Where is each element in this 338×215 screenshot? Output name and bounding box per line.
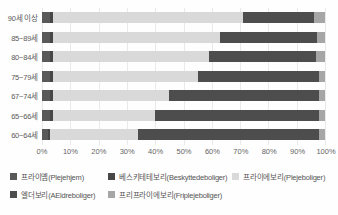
legend-label: 프리프라이에보리(Friplejeboliger) bbox=[119, 189, 222, 200]
bar-segment bbox=[316, 51, 324, 62]
bar-segment bbox=[42, 90, 50, 101]
bar-row bbox=[42, 125, 325, 145]
bar-segment bbox=[319, 90, 325, 101]
legend-label: 프라이옘(Plejehjem) bbox=[21, 171, 84, 182]
bar-row bbox=[42, 47, 325, 67]
bar-segment bbox=[317, 32, 325, 43]
bar-row bbox=[42, 8, 325, 28]
x-axis-tick-label: 70% bbox=[233, 147, 248, 156]
y-axis-label: 65~66세 bbox=[0, 106, 42, 126]
y-axis-label: 80~84세 bbox=[0, 47, 42, 67]
y-axis-label: 60~64세 bbox=[0, 125, 42, 145]
legend-item: 베스키테테보리(Beskyttedeboliger) bbox=[108, 171, 232, 182]
bar-segment bbox=[42, 12, 50, 23]
legend: 프라이옘(Plejehjem)베스키테테보리(Beskyttedeboliger… bbox=[10, 171, 338, 200]
stacked-bar-chart: 90세 이상85~89세80~84세75~79세67~74세65~66세60~6… bbox=[0, 0, 338, 200]
legend-label: 베스키테테보리(Beskyttedeboliger) bbox=[119, 171, 227, 182]
x-axis-tick-label: 50% bbox=[176, 147, 191, 156]
bar-segment bbox=[42, 110, 50, 121]
bar-track bbox=[42, 90, 325, 101]
bar-segment bbox=[209, 51, 317, 62]
x-axis-tick-label: 10% bbox=[63, 147, 78, 156]
bar-row bbox=[42, 67, 325, 87]
bar-segment bbox=[198, 71, 320, 82]
bar-track bbox=[42, 71, 325, 82]
bar-segment bbox=[155, 110, 319, 121]
bars-area bbox=[42, 8, 326, 145]
bar-track bbox=[42, 12, 325, 23]
bar-segment bbox=[53, 71, 197, 82]
bar-segment bbox=[319, 71, 325, 82]
legend-label: 프라이에보리(Plejeboliger) bbox=[243, 171, 325, 182]
legend-label: 엘더보리(AEldreboliger) bbox=[21, 189, 95, 200]
x-axis-tick-label: 60% bbox=[205, 147, 220, 156]
bar-segment bbox=[53, 51, 209, 62]
bar-segment bbox=[53, 90, 169, 101]
bar-segment bbox=[243, 12, 314, 23]
bar-segment bbox=[53, 110, 155, 121]
bar-track bbox=[42, 110, 325, 121]
x-axis-tick-label: 100% bbox=[316, 147, 335, 156]
legend-swatch-icon bbox=[108, 191, 115, 198]
bar-segment bbox=[53, 12, 243, 23]
bar-segment bbox=[42, 71, 50, 82]
x-axis: 0%10%20%30%40%50%60%70%80%90%100% bbox=[0, 147, 338, 159]
legend-item: 엘더보리(AEldreboliger) bbox=[10, 189, 108, 200]
bar-segment bbox=[53, 32, 220, 43]
bar-segment bbox=[50, 129, 138, 140]
x-axis-tick-label: 0% bbox=[37, 147, 48, 156]
bar-segment bbox=[42, 51, 50, 62]
legend-item: 프리프라이에보리(Friplejeboliger) bbox=[108, 189, 232, 200]
bar-track bbox=[42, 51, 325, 62]
legend-swatch-icon bbox=[232, 173, 239, 180]
bar-row bbox=[42, 106, 325, 126]
bar-segment bbox=[220, 32, 316, 43]
bar-row bbox=[42, 28, 325, 48]
bar-segment bbox=[169, 90, 319, 101]
y-axis-labels: 90세 이상85~89세80~84세75~79세67~74세65~66세60~6… bbox=[0, 8, 42, 145]
y-axis-label: 75~79세 bbox=[0, 67, 42, 87]
legend-swatch-icon bbox=[10, 173, 17, 180]
bar-track bbox=[42, 129, 325, 140]
x-axis-tick-label: 90% bbox=[290, 147, 305, 156]
y-axis-label: 67~74세 bbox=[0, 86, 42, 106]
bar-segment bbox=[314, 12, 325, 23]
bar-row bbox=[42, 86, 325, 106]
legend-item: 프라이에보리(Plejeboliger) bbox=[232, 171, 338, 182]
bar-segment bbox=[42, 32, 50, 43]
y-axis-label: 90세 이상 bbox=[0, 8, 42, 28]
bar-segment bbox=[319, 110, 325, 121]
y-axis-label: 85~89세 bbox=[0, 28, 42, 48]
x-axis-tick-label: 20% bbox=[91, 147, 106, 156]
x-axis-ticks: 0%10%20%30%40%50%60%70%80%90%100% bbox=[42, 147, 326, 159]
x-axis-tick-label: 40% bbox=[148, 147, 163, 156]
legend-item: 프라이옘(Plejehjem) bbox=[10, 171, 108, 182]
plot-area: 90세 이상85~89세80~84세75~79세67~74세65~66세60~6… bbox=[0, 8, 338, 145]
bar-segment bbox=[319, 129, 325, 140]
x-axis-tick-label: 80% bbox=[262, 147, 277, 156]
legend-swatch-icon bbox=[108, 173, 115, 180]
legend-swatch-icon bbox=[10, 191, 17, 198]
bar-track bbox=[42, 32, 325, 43]
x-axis-tick-label: 30% bbox=[120, 147, 135, 156]
bar-segment bbox=[138, 129, 319, 140]
